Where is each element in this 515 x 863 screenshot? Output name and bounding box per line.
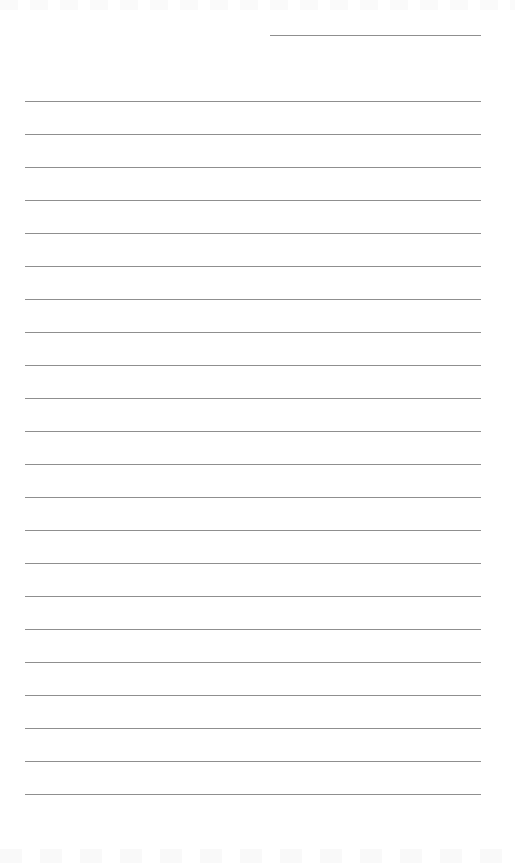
- ruled-line: [25, 299, 481, 300]
- bleed-through-artifact-top: [0, 0, 515, 10]
- ruled-line: [25, 728, 481, 729]
- header-name-line: [270, 35, 481, 36]
- ruled-line: [25, 794, 481, 795]
- ruled-line: [25, 200, 481, 201]
- ruled-line: [25, 101, 481, 102]
- ruled-line: [25, 662, 481, 663]
- ruled-line: [25, 266, 481, 267]
- ruled-line: [25, 563, 481, 564]
- ruled-line: [25, 134, 481, 135]
- ruled-line: [25, 365, 481, 366]
- ruled-line: [25, 596, 481, 597]
- ruled-line: [25, 497, 481, 498]
- ruled-line: [25, 695, 481, 696]
- ruled-line: [25, 431, 481, 432]
- ruled-line: [25, 530, 481, 531]
- ruled-line: [25, 332, 481, 333]
- lined-paper-page: [0, 0, 515, 863]
- ruled-line: [25, 464, 481, 465]
- bleed-through-artifact-bottom: [0, 849, 515, 863]
- ruled-line: [25, 167, 481, 168]
- ruled-line: [25, 233, 481, 234]
- ruled-line: [25, 398, 481, 399]
- ruled-line: [25, 629, 481, 630]
- ruled-line: [25, 761, 481, 762]
